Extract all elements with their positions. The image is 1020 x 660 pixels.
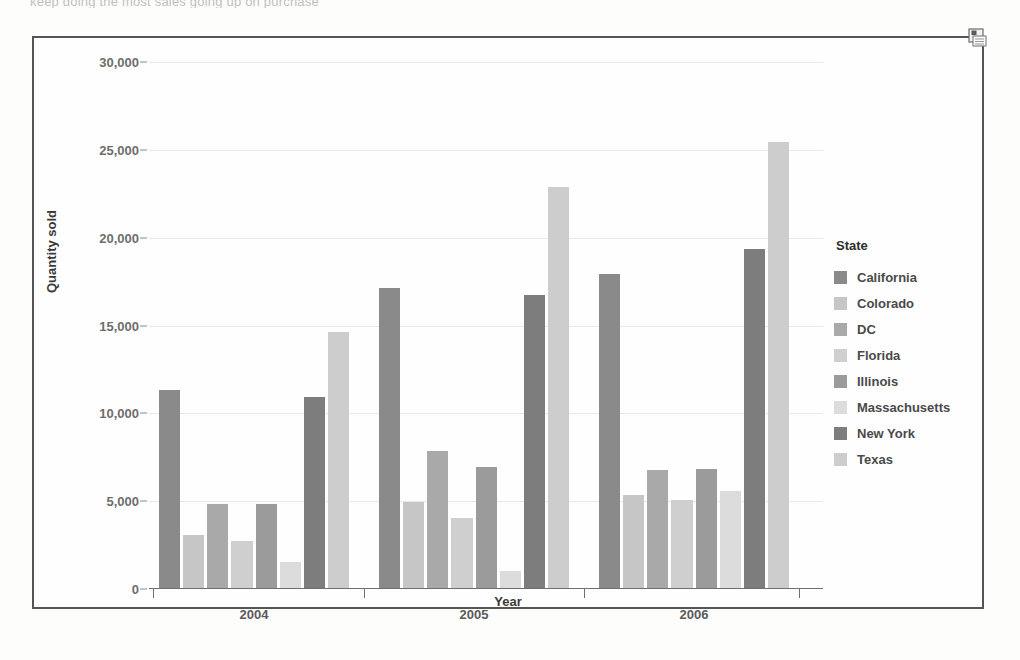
- legend-item-dc[interactable]: DC: [834, 316, 1009, 342]
- y-tick-label: 10,000: [53, 406, 139, 421]
- bar[interactable]: [159, 390, 180, 589]
- bar[interactable]: [256, 504, 277, 588]
- legend-swatch-icon: [834, 375, 847, 388]
- y-tick-mark: [140, 62, 147, 63]
- bar[interactable]: [328, 332, 349, 588]
- gridline: [149, 150, 823, 151]
- bar[interactable]: [671, 500, 692, 588]
- bar[interactable]: [647, 470, 668, 588]
- legend-item-label: Florida: [857, 348, 900, 363]
- y-tick-mark: [140, 237, 147, 238]
- y-tick-label: 15,000: [53, 318, 139, 333]
- x-axis-title: Year: [34, 594, 982, 609]
- legend-item-illinois[interactable]: Illinois: [834, 368, 1009, 394]
- legend-item-colorado[interactable]: Colorado: [834, 290, 1009, 316]
- y-axis-title: Quantity sold: [44, 210, 59, 293]
- legend-item-label: California: [857, 270, 917, 285]
- x-tick-label: 2006: [680, 607, 709, 622]
- legend-item-label: Colorado: [857, 296, 914, 311]
- gridline: [149, 326, 823, 327]
- y-tick-label: 0: [53, 582, 139, 597]
- gridline: [149, 238, 823, 239]
- x-tick-label: 2005: [460, 607, 489, 622]
- x-tick-mark: [153, 589, 154, 598]
- y-tick-label: 5,000: [53, 494, 139, 509]
- x-tick-mark: [584, 589, 585, 598]
- legend-item-label: Massachusetts: [857, 400, 950, 415]
- x-axis-end-tick: [799, 589, 800, 598]
- legend-swatch-icon: [834, 323, 847, 336]
- y-tick-label: 20,000: [53, 230, 139, 245]
- bar[interactable]: [548, 187, 569, 588]
- bar[interactable]: [599, 274, 620, 588]
- scanned-page-text: keep doing the most sales going up on pu…: [30, 0, 650, 8]
- x-tick-label: 2004: [240, 607, 269, 622]
- gridline: [149, 62, 823, 63]
- legend: State CaliforniaColoradoDCFloridaIllinoi…: [834, 238, 1009, 472]
- axis-baseline: [149, 588, 823, 589]
- legend-item-label: Texas: [857, 452, 893, 467]
- bar[interactable]: [427, 451, 448, 588]
- bar[interactable]: [500, 571, 521, 588]
- gridline: [149, 413, 823, 414]
- legend-swatch-icon: [834, 427, 847, 440]
- bar[interactable]: [379, 288, 400, 588]
- y-tick-mark: [140, 325, 147, 326]
- chart-frame: Quantity sold Year 05,00010,00015,00020,…: [32, 36, 984, 609]
- bar[interactable]: [304, 397, 325, 588]
- bar[interactable]: [183, 535, 204, 588]
- legend-item-new-york[interactable]: New York: [834, 420, 1009, 446]
- legend-swatch-icon: [834, 349, 847, 362]
- bar[interactable]: [403, 502, 424, 588]
- legend-item-label: DC: [857, 322, 876, 337]
- bar[interactable]: [720, 491, 741, 588]
- legend-item-california[interactable]: California: [834, 264, 1009, 290]
- y-tick-label: 30,000: [53, 55, 139, 70]
- y-tick-mark: [140, 589, 147, 590]
- legend-swatch-icon: [834, 401, 847, 414]
- legend-item-texas[interactable]: Texas: [834, 446, 1009, 472]
- legend-rows: CaliforniaColoradoDCFloridaIllinoisMassa…: [834, 264, 1009, 472]
- bar[interactable]: [451, 518, 472, 588]
- legend-item-florida[interactable]: Florida: [834, 342, 1009, 368]
- y-tick-mark: [140, 149, 147, 150]
- y-tick-mark: [140, 501, 147, 502]
- bar[interactable]: [280, 562, 301, 588]
- legend-item-label: New York: [857, 426, 915, 441]
- plot-area: 05,00010,00015,00020,00025,00030,000 200…: [149, 62, 807, 589]
- bar[interactable]: [207, 504, 228, 588]
- legend-swatch-icon: [834, 271, 847, 284]
- legend-title: State: [834, 238, 1009, 253]
- bar[interactable]: [623, 495, 644, 588]
- bar[interactable]: [768, 142, 789, 588]
- legend-swatch-icon: [834, 453, 847, 466]
- y-tick-label: 25,000: [53, 142, 139, 157]
- legend-item-label: Illinois: [857, 374, 898, 389]
- bar[interactable]: [476, 467, 497, 588]
- bar[interactable]: [524, 295, 545, 588]
- save-icon[interactable]: [968, 28, 990, 48]
- bar[interactable]: [696, 469, 717, 588]
- y-tick-mark: [140, 413, 147, 414]
- bar[interactable]: [231, 541, 252, 588]
- legend-item-massachusetts[interactable]: Massachusetts: [834, 394, 1009, 420]
- legend-swatch-icon: [834, 297, 847, 310]
- x-tick-mark: [364, 589, 365, 598]
- bar[interactable]: [744, 249, 765, 588]
